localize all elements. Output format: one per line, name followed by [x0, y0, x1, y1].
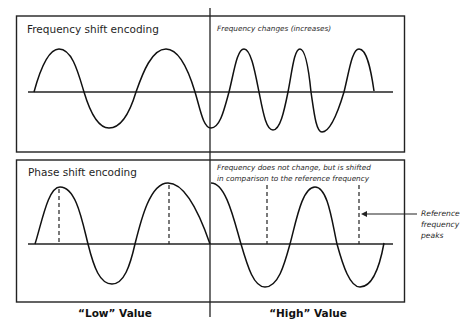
- frequency-shift-title: Frequency shift encoding: [27, 23, 159, 35]
- phase-note-line1: Frequency does not change, but is shifte…: [217, 163, 371, 172]
- in-phase-wave: [35, 183, 210, 284]
- frequency-change-note: Frequency changes (increases): [217, 24, 331, 33]
- encoding-diagram: Frequency shift encoding Frequency chang…: [0, 0, 472, 330]
- reference-label-line1: Reference: [421, 209, 460, 218]
- high-value-label: “High” Value: [269, 307, 347, 319]
- low-value-label: “Low” Value: [78, 307, 152, 319]
- arrow-head-icon: [361, 211, 367, 217]
- high-frequency-wave: [211, 49, 374, 132]
- low-frequency-wave: [34, 49, 211, 128]
- reference-label-line3: peaks: [420, 231, 444, 240]
- reference-label-line2: frequency: [421, 220, 460, 229]
- phase-shift-title: Phase shift encoding: [28, 166, 137, 178]
- phase-shifted-wave: [211, 183, 384, 287]
- phase-note-line2: in comparison to the reference frequency: [217, 174, 370, 183]
